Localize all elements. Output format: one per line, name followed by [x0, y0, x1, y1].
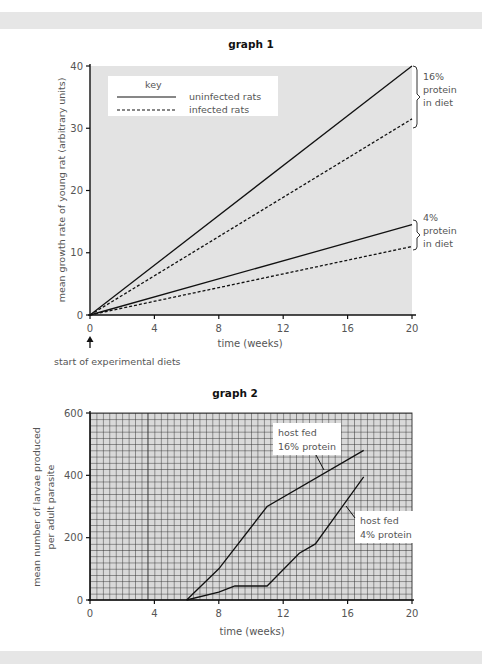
graph2-label-high-l2: 16% protein	[278, 441, 336, 452]
graph2-y-label-l1: mean number of larvae produced	[31, 427, 42, 587]
graph2-label-low-l1: host fed	[360, 515, 399, 526]
x-tick-label: 12	[277, 323, 290, 334]
graph2-label-low-l2: 4% protein	[360, 529, 412, 540]
x-tick-label: 16	[341, 608, 354, 619]
y-tick-label: 400	[64, 470, 83, 481]
graph1-bracket-high-l1: 16%	[423, 71, 444, 82]
x-tick-label: 8	[216, 608, 222, 619]
y-tick-label: 600	[64, 408, 83, 419]
x-tick-label: 4	[151, 323, 157, 334]
graph1-key-dashed-label: infected rats	[189, 104, 249, 115]
x-tick-label: 20	[406, 323, 419, 334]
graph1-y-label: mean growth rate of young rat (arbitrary…	[56, 78, 67, 303]
y-tick-label: 30	[70, 123, 83, 134]
graph1-start-note: start of experimental diets	[54, 356, 181, 367]
x-tick-label: 0	[87, 608, 93, 619]
graph1-key-title: key	[145, 79, 162, 90]
y-tick-label: 40	[70, 61, 83, 72]
y-tick-label: 200	[64, 532, 83, 543]
start-arrowhead-icon	[87, 336, 94, 342]
x-tick-label: 16	[341, 323, 354, 334]
y-tick-label: 0	[77, 595, 83, 606]
x-tick-label: 12	[277, 608, 290, 619]
graph2-y-label-l2: per adult parasite	[45, 464, 56, 549]
graph1-bracket-high-l2: protein	[423, 84, 457, 95]
graph2-grid	[90, 413, 412, 600]
graph2-label-high-l1: host fed	[278, 427, 317, 438]
graph1-bracket-low-l2: protein	[423, 225, 457, 236]
graph2-x-label: time (weeks)	[219, 626, 284, 637]
figure: graph 1 key uninfected rats infected rat…	[0, 0, 482, 664]
x-tick-label: 8	[216, 323, 222, 334]
graph2-title: graph 2	[212, 387, 258, 399]
y-tick-label: 0	[77, 310, 83, 321]
y-tick-label: 10	[70, 247, 83, 258]
y-tick-label: 20	[70, 185, 83, 196]
graph1-x-label: time (weeks)	[217, 338, 282, 349]
graph1-bracket-low-l1: 4%	[423, 212, 438, 223]
graph1-bracket-high-l3: in diet	[423, 97, 453, 108]
bracket-high-icon	[413, 66, 420, 128]
x-tick-label: 4	[151, 608, 157, 619]
graph1-title: graph 1	[228, 38, 274, 50]
x-tick-label: 0	[87, 323, 93, 334]
bracket-low-icon	[413, 220, 420, 250]
graph1-bracket-low-l3: in diet	[423, 238, 453, 249]
x-tick-label: 20	[406, 608, 419, 619]
graph1-key-solid-label: uninfected rats	[189, 91, 261, 102]
